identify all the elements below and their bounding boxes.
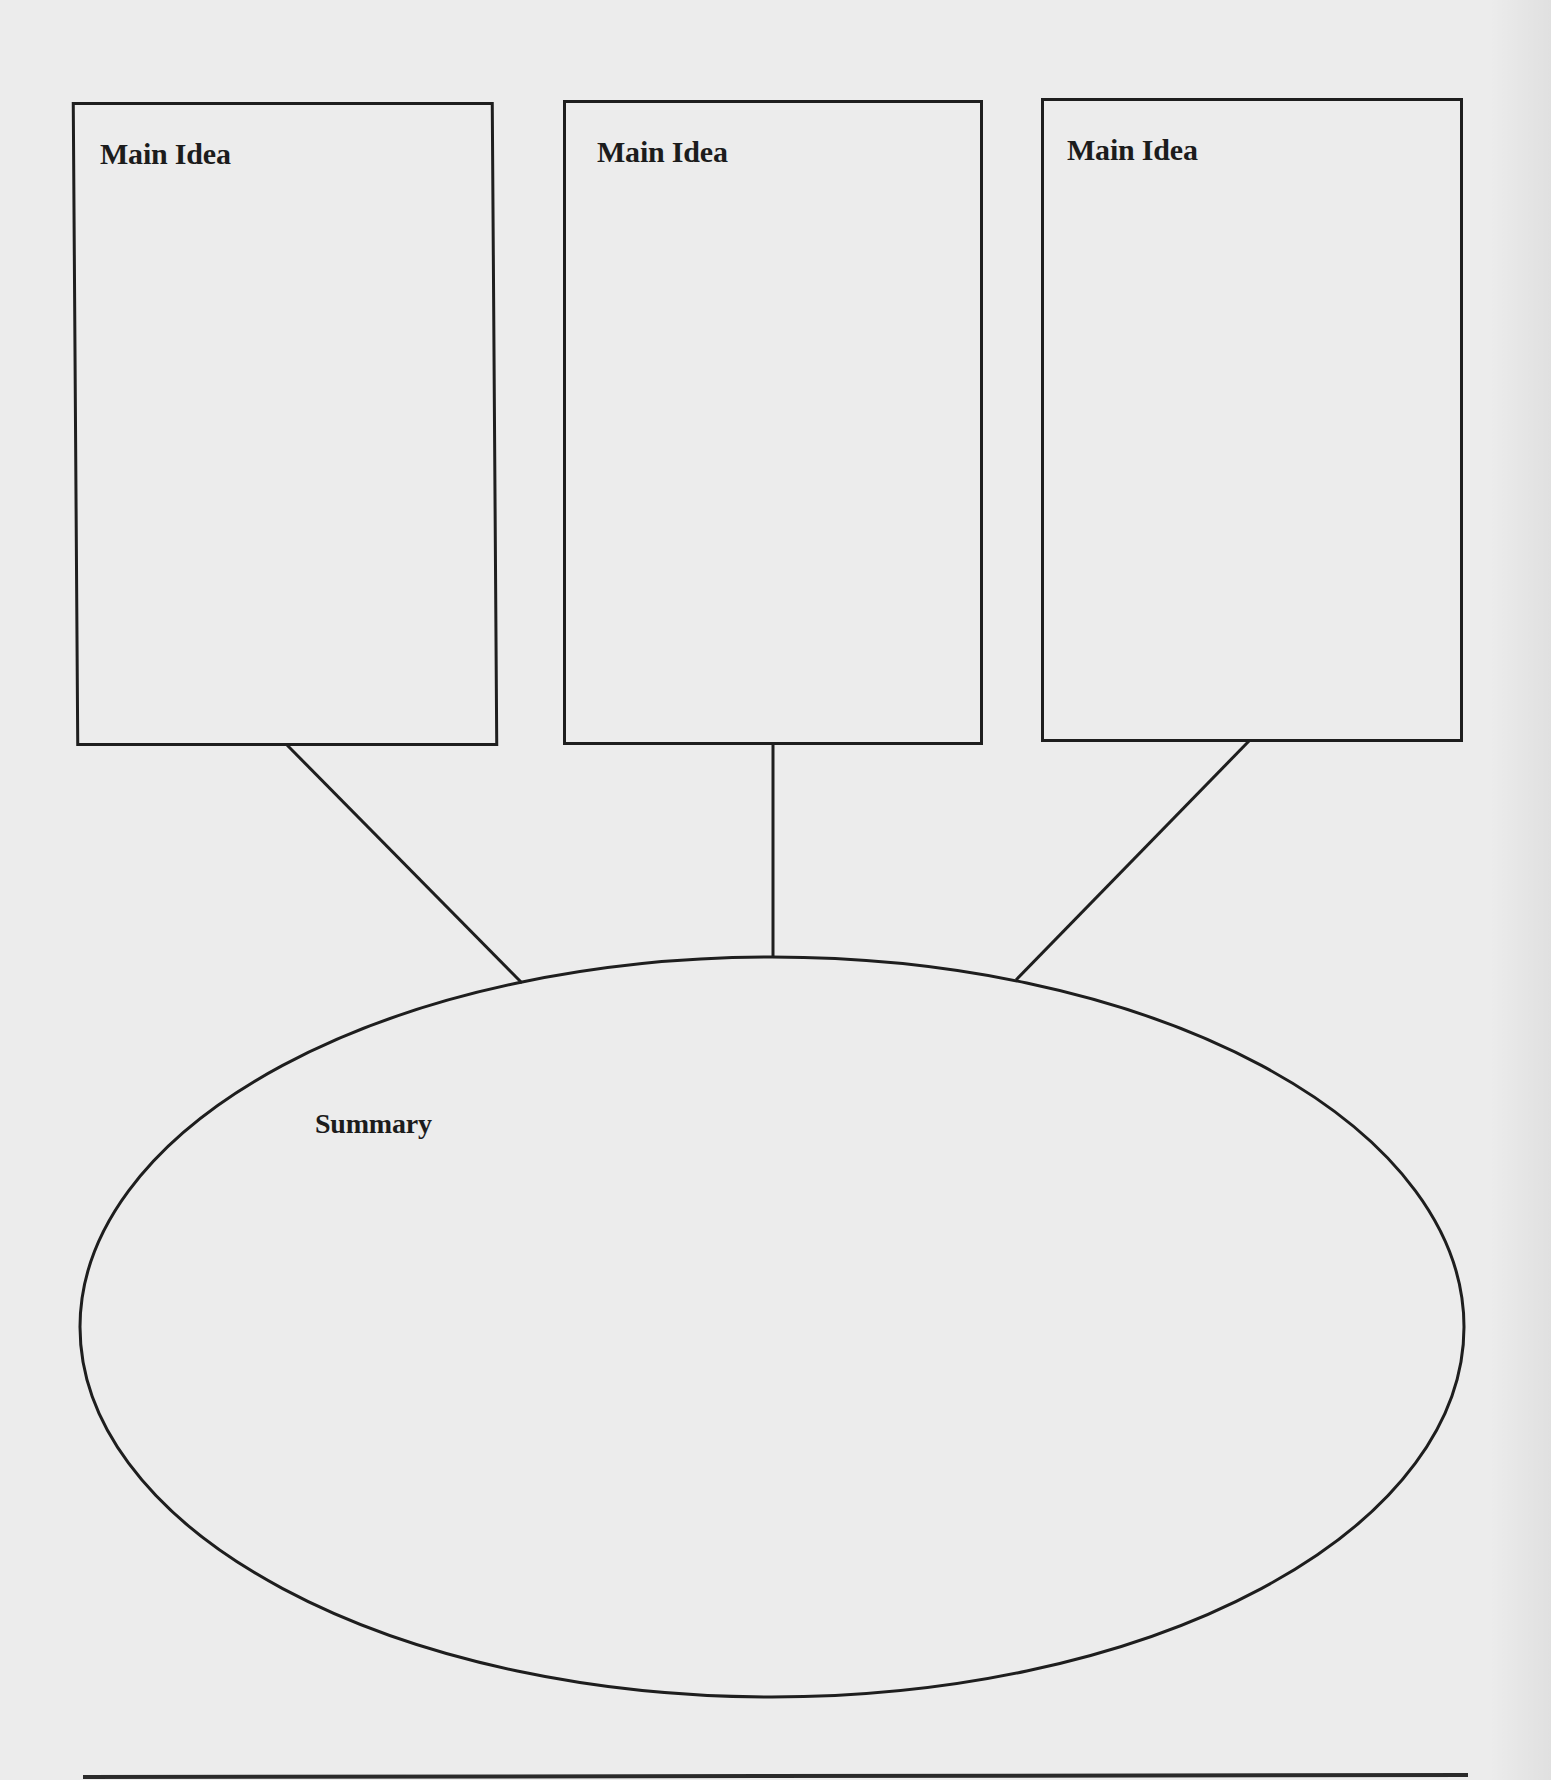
connector-left (287, 745, 522, 983)
main-idea-label-2: Main Idea (597, 137, 728, 167)
bottom-rule (83, 1775, 1468, 1777)
main-idea-writing-area-1[interactable] (90, 190, 480, 730)
main-idea-label-1: Main Idea (100, 139, 231, 169)
main-idea-label-3: Main Idea (1067, 135, 1198, 165)
main-idea-writing-area-3[interactable] (1058, 188, 1448, 728)
summary-label: Summary (315, 1110, 432, 1138)
worksheet-page: Main Idea Main Idea Main Idea Summary (0, 0, 1551, 1780)
connector-right (1016, 741, 1249, 980)
main-idea-writing-area-2[interactable] (580, 190, 970, 730)
summary-writing-area[interactable] (250, 1160, 1290, 1580)
